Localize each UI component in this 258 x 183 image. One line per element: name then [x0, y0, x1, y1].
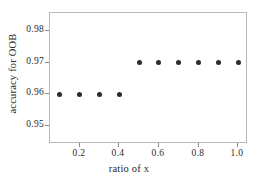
y-tick-label-1: 0.97 — [26, 56, 44, 66]
data-point — [77, 92, 82, 97]
x-tick-label-3: 0.8 — [192, 148, 205, 158]
scatter-plot-figure: 0.98 0.97 0.96 0.95 0.2 0.4 0.6 0.8 1.0 … — [0, 0, 258, 183]
x-tick-mark-0 — [79, 143, 80, 147]
data-point — [216, 60, 221, 65]
x-tick-mark-3 — [198, 143, 199, 147]
plot-area — [49, 12, 247, 143]
x-tick-mark-2 — [158, 143, 159, 147]
data-point — [236, 60, 241, 65]
data-point — [156, 60, 161, 65]
x-tick-label-1: 0.4 — [112, 148, 125, 158]
x-tick-label-4: 1.0 — [231, 148, 244, 158]
y-axis-title: accuracy for OOB — [7, 14, 18, 134]
data-point — [176, 60, 181, 65]
x-axis-title: ratio of x — [0, 163, 258, 174]
data-point — [196, 60, 201, 65]
y-tick-label-2: 0.96 — [26, 87, 44, 97]
x-tick-mark-1 — [118, 143, 119, 147]
y-tick-label-3: 0.95 — [26, 119, 44, 129]
data-point — [57, 92, 62, 97]
data-point — [97, 92, 102, 97]
data-point — [117, 92, 122, 97]
x-tick-label-0: 0.2 — [73, 148, 86, 158]
x-tick-label-2: 0.6 — [152, 148, 165, 158]
y-tick-label-0: 0.98 — [26, 24, 44, 34]
x-tick-mark-4 — [237, 143, 238, 147]
data-points-layer — [50, 13, 246, 142]
data-point — [137, 60, 142, 65]
